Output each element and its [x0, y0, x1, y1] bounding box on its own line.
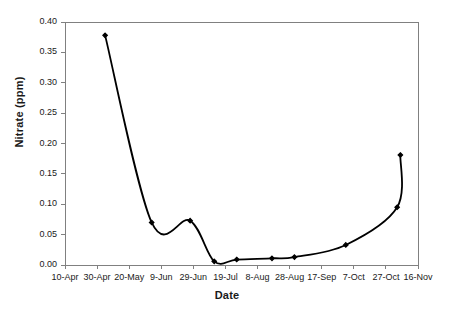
data-point-marker: [292, 255, 297, 260]
data-point-marker: [398, 153, 403, 158]
data-point-marker: [234, 257, 239, 262]
data-point-marker: [103, 33, 108, 38]
axis-frame: [65, 22, 418, 265]
nitrate-time-series-chart: Nitrate (ppm) Date 0.000.050.100.150.200…: [0, 0, 454, 315]
axis-ticks: [61, 22, 418, 269]
plot-area: [0, 0, 454, 315]
data-point-marker: [270, 256, 275, 261]
data-series-nitrate: [103, 33, 403, 264]
